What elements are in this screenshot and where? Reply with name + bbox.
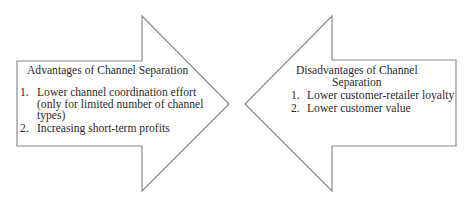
list-number: 1. [20, 87, 29, 99]
list-number: 2. [291, 103, 300, 115]
disadvantages-title: Disadvantages of Channel Separation [296, 65, 418, 88]
title-line: Disadvantages of Channel [296, 65, 418, 77]
disadvantages-item-1: 1. Lower customer-retailer loyalty [291, 90, 454, 102]
advantages-list: 1. Lower channel coordination effort (on… [20, 87, 210, 135]
advantages-item-2: 2. Increasing short-term profits [20, 123, 210, 135]
disadvantages-item-2: 2. Lower customer value [291, 103, 454, 115]
title-line: Separation [296, 77, 418, 89]
list-number: 2. [20, 123, 29, 135]
advantages-title: Advantages of Channel Separation [27, 65, 188, 77]
item-line: Increasing short-term profits [37, 123, 210, 135]
item-line: Lower customer-retailer loyalty [307, 90, 454, 102]
list-number: 1. [291, 90, 300, 102]
item-line: Lower customer value [307, 103, 454, 115]
item-line: Lower channel coordination effort [37, 87, 210, 99]
advantages-item-1: 1. Lower channel coordination effort (on… [20, 87, 210, 122]
disadvantages-list: 1. Lower customer-retailer loyalty 2. Lo… [291, 90, 454, 116]
item-line: types) [37, 110, 210, 122]
